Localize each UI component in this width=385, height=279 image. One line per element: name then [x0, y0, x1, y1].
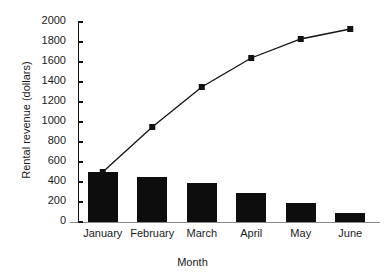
cumulative-line-markers: January: 500February: 950March: 1350Apri… — [100, 26, 354, 175]
plot-area: January: 500February: 950March: 1350Apri… — [78, 22, 375, 222]
x-axis-category-label: March — [177, 227, 227, 239]
x-axis-category-label: May — [276, 227, 326, 239]
line-marker: March: 1350 — [199, 84, 205, 90]
y-axis-tick-label: 0 — [60, 214, 66, 226]
x-axis-baseline — [70, 222, 380, 223]
y-axis-tick-label: 2000 — [42, 14, 66, 26]
x-axis-category-label: February — [128, 227, 178, 239]
y-axis-tick-label: 200 — [48, 194, 66, 206]
y-axis-tick-label: 1200 — [42, 94, 66, 106]
y-axis-tick-label: 1600 — [42, 54, 66, 66]
line-marker: January: 500 — [100, 169, 106, 175]
y-axis-tick-label: 600 — [48, 154, 66, 166]
x-axis-title: Month — [0, 256, 385, 268]
line-marker: February: 950 — [149, 124, 155, 130]
x-axis-category-label: June — [326, 227, 376, 239]
x-axis-category-label: April — [227, 227, 277, 239]
y-axis-tick-label: 400 — [48, 174, 66, 186]
chart-container: Rental revenue (dollars) 020040060080010… — [0, 0, 385, 279]
line-marker: May: 1830 — [298, 36, 304, 42]
y-axis-title: Rental revenue (dollars) — [20, 20, 32, 220]
line-marker: April: 1640 — [248, 55, 254, 61]
cumulative-line-series: January: 500February: 950March: 1350Apri… — [78, 22, 375, 222]
y-axis-tick-label: 1800 — [42, 34, 66, 46]
y-axis-tick-label: 1000 — [42, 114, 66, 126]
line-marker: June: 1930 — [347, 26, 353, 32]
y-axis-tick-label: 1400 — [42, 74, 66, 86]
y-axis-tick-label: 800 — [48, 134, 66, 146]
cumulative-line-path — [103, 29, 351, 172]
x-axis-category-label: January — [78, 227, 128, 239]
